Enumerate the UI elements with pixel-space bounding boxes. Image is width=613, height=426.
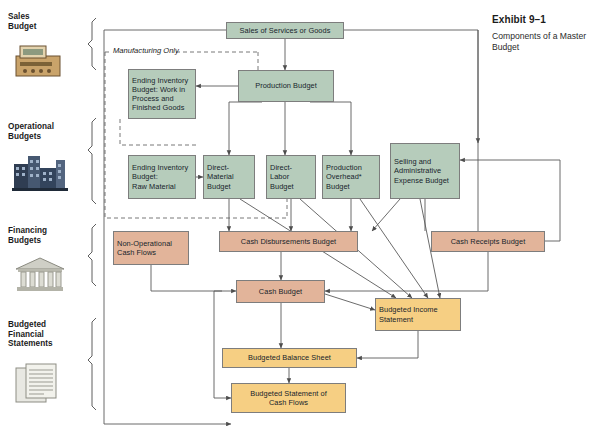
node-label: Sales of Services or Goods (240, 26, 331, 35)
node-label: Ending Inventory Budget: Raw Material (132, 163, 188, 190)
side-label-operational-budgets: Operational Budgets (8, 122, 54, 141)
node-cash-budget[interactable]: Cash Budget (236, 280, 325, 303)
manufacturing-only-note: Manufacturing Only (113, 46, 179, 55)
node-label: Production Budget (255, 81, 317, 90)
node-cash-disbursements-budget[interactable]: Cash Disbursements Budget (219, 231, 358, 252)
node-label: Production Overhead* Budget (326, 163, 362, 190)
cash-register-icon (12, 40, 64, 84)
node-selling-and-administrative-expense-budget[interactable]: Selling and Administrative Expense Budge… (390, 143, 460, 199)
side-label-sales-budget: Sales Budget (8, 12, 37, 31)
node-ending-inventory-budget-wip[interactable]: Ending Inventory Budget: Work in Process… (128, 69, 196, 119)
node-label: Selling and Administrative Expense Budge… (394, 157, 449, 184)
documents-icon (14, 362, 66, 410)
node-label: Budgeted Statement of Cash Flows (250, 389, 327, 407)
node-production-budget[interactable]: Production Budget (238, 70, 334, 102)
side-label-budgeted-financial-statements: Budgeted Financial Statements (8, 320, 53, 349)
node-direct-material-budget[interactable]: Direct- Material Budget (203, 155, 255, 199)
node-label: Budgeted Balance Sheet (248, 353, 331, 362)
node-label: Non-Operational Cash Flows (117, 239, 172, 257)
node-label: Direct- Material Budget (207, 163, 234, 190)
node-label: Cash Disbursements Budget (241, 237, 336, 246)
node-cash-receipts-budget[interactable]: Cash Receipts Budget (431, 231, 545, 252)
node-sales-of-services-or-goods[interactable]: Sales of Services or Goods (226, 22, 344, 39)
node-label: Cash Budget (259, 287, 302, 296)
node-label: Ending Inventory Budget: Work in Process… (132, 76, 188, 112)
exhibit-title: Components of a Master Budget (492, 31, 612, 53)
exhibit-number: Exhibit 9–1 (492, 14, 546, 25)
node-ending-inventory-budget-raw-material[interactable]: Ending Inventory Budget: Raw Material (128, 155, 196, 199)
node-label: Direct- Labor Budget (270, 163, 294, 190)
node-budgeted-income-statement[interactable]: Budgeted Income Statement (375, 298, 461, 331)
factory-icon (12, 150, 68, 196)
node-budgeted-statement-of-cash-flows[interactable]: Budgeted Statement of Cash Flows (231, 383, 346, 413)
node-budgeted-balance-sheet[interactable]: Budgeted Balance Sheet (222, 348, 357, 368)
bank-icon (14, 254, 66, 298)
node-direct-labor-budget[interactable]: Direct- Labor Budget (266, 155, 316, 199)
node-non-operational-cash-flows[interactable]: Non-Operational Cash Flows (113, 231, 189, 265)
node-label: Budgeted Income Statement (379, 305, 438, 323)
exhibit-diagram: Sales Budget Operational Budgets (0, 0, 613, 426)
side-label-financing-budgets: Financing Budgets (8, 226, 47, 245)
node-production-overhead-budget[interactable]: Production Overhead* Budget (322, 155, 380, 199)
node-label: Cash Receipts Budget (451, 237, 526, 246)
